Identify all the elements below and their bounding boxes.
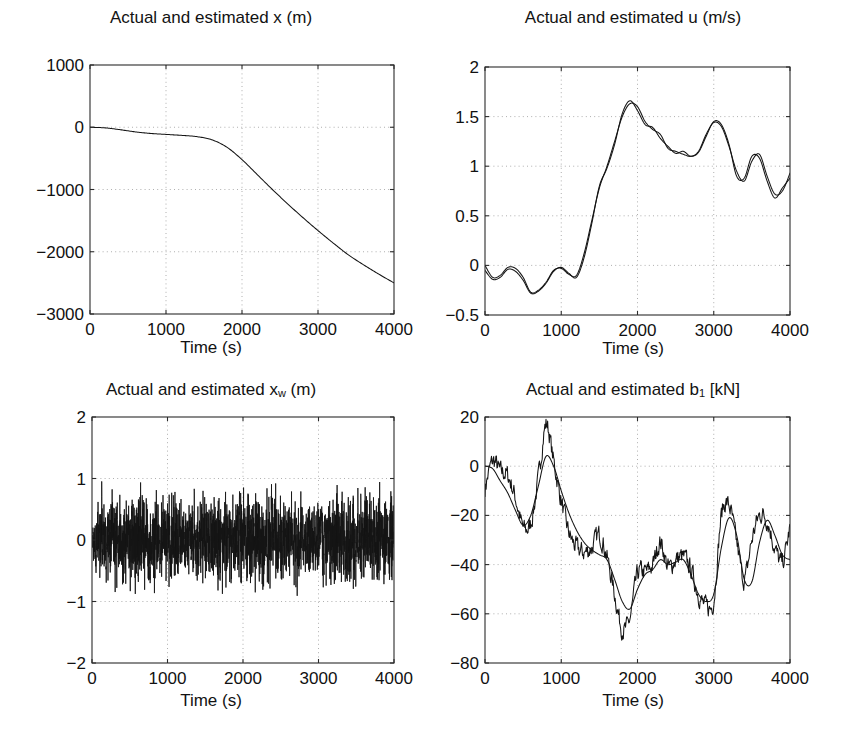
svg-text:4000: 4000 bbox=[771, 321, 809, 338]
xlabel-x: Time (s) bbox=[0, 338, 422, 358]
svg-text:−60: −60 bbox=[450, 605, 479, 624]
svg-text:−0.5: −0.5 bbox=[445, 306, 479, 325]
svg-text:0: 0 bbox=[75, 118, 84, 137]
svg-text:0: 0 bbox=[480, 321, 489, 338]
svg-text:0.5: 0.5 bbox=[455, 207, 479, 226]
svg-text:1: 1 bbox=[77, 470, 86, 489]
svg-text:3000: 3000 bbox=[300, 669, 338, 688]
svg-text:1: 1 bbox=[470, 157, 479, 176]
axes-xw: 01000200030004000210−1−2 bbox=[0, 380, 422, 690]
svg-text:−1: −1 bbox=[67, 593, 86, 612]
subplot-x: Actual and estimated x (m) 0100020003000… bbox=[0, 8, 422, 376]
svg-text:2000: 2000 bbox=[223, 320, 261, 338]
svg-text:1000: 1000 bbox=[147, 320, 185, 338]
subplot-u: Actual and estimated u (m/s) 01000200030… bbox=[422, 8, 844, 376]
svg-text:0: 0 bbox=[480, 669, 489, 688]
svg-text:0: 0 bbox=[85, 320, 94, 338]
figure-canvas: Actual and estimated x (m) 0100020003000… bbox=[0, 0, 844, 752]
svg-text:2: 2 bbox=[470, 58, 479, 77]
svg-text:−2000: −2000 bbox=[36, 243, 84, 262]
svg-text:−2: −2 bbox=[67, 654, 86, 673]
xlabel-u: Time (s) bbox=[422, 339, 844, 359]
svg-text:4000: 4000 bbox=[375, 669, 413, 688]
xlabel-b1: Time (s) bbox=[422, 691, 844, 711]
svg-text:−40: −40 bbox=[450, 556, 479, 575]
svg-text:2000: 2000 bbox=[224, 669, 262, 688]
svg-text:3000: 3000 bbox=[299, 320, 337, 338]
svg-text:3000: 3000 bbox=[695, 669, 733, 688]
svg-text:1000: 1000 bbox=[542, 321, 580, 338]
svg-text:0: 0 bbox=[77, 531, 86, 550]
svg-text:3000: 3000 bbox=[695, 321, 733, 338]
svg-text:4000: 4000 bbox=[771, 669, 809, 688]
svg-text:−20: −20 bbox=[450, 506, 479, 525]
svg-text:0: 0 bbox=[87, 669, 96, 688]
axes-x: 0100020003000400010000−1000−2000−3000 bbox=[0, 8, 422, 338]
svg-text:2: 2 bbox=[77, 408, 86, 427]
svg-text:−3000: −3000 bbox=[36, 305, 84, 324]
svg-text:1.5: 1.5 bbox=[455, 108, 479, 127]
svg-text:20: 20 bbox=[460, 408, 479, 427]
xlabel-xw: Time (s) bbox=[0, 691, 422, 711]
subplot-b1: Actual and estimated b1 [kN] 01000200030… bbox=[422, 380, 844, 752]
axes-b1: 01000200030004000200−20−40−60−80 bbox=[422, 380, 844, 690]
svg-text:0: 0 bbox=[470, 457, 479, 476]
svg-text:−80: −80 bbox=[450, 654, 479, 673]
svg-text:2000: 2000 bbox=[619, 321, 657, 338]
svg-text:−1000: −1000 bbox=[36, 181, 84, 200]
axes-u: 0100020003000400021.510.50−0.5 bbox=[422, 8, 844, 338]
svg-text:1000: 1000 bbox=[46, 56, 84, 75]
svg-text:4000: 4000 bbox=[375, 320, 413, 338]
svg-text:1000: 1000 bbox=[542, 669, 580, 688]
svg-text:2000: 2000 bbox=[619, 669, 657, 688]
svg-text:1000: 1000 bbox=[149, 669, 187, 688]
subplot-xw: Actual and estimated xw (m) 010002000300… bbox=[0, 380, 422, 752]
svg-text:0: 0 bbox=[470, 256, 479, 275]
